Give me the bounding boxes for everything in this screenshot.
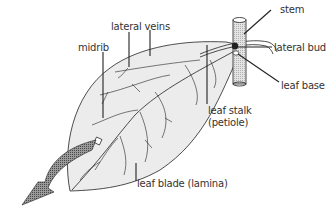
label-lateral-bud: lateral bud bbox=[274, 42, 326, 53]
lateral-bud bbox=[232, 42, 238, 49]
label-petiole: (petiole) bbox=[208, 117, 248, 128]
label-leaf-base: leaf base bbox=[281, 80, 325, 91]
label-stem: stem bbox=[280, 4, 304, 15]
label-leaf-blade: leaf blade (lamina) bbox=[137, 178, 228, 189]
label-leaf-stalk: leaf stalk bbox=[208, 105, 252, 116]
label-lateral-veins: lateral veins bbox=[111, 21, 170, 32]
label-midrib: midrib bbox=[78, 42, 109, 53]
